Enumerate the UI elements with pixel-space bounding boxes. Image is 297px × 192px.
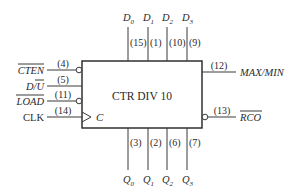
pin-label: (3) [130, 137, 142, 149]
output-rco: (13) RCO [202, 105, 262, 123]
signal-label: D3 [181, 12, 194, 26]
clock-label: C [96, 111, 104, 123]
pin-label: (2) [150, 137, 162, 149]
pin-label: (10) [169, 37, 186, 49]
pin-label: (6) [169, 137, 181, 149]
signal-label: MAX/MIN [239, 67, 285, 78]
pin-label: (12) [211, 60, 228, 72]
output-q0: (3) Q0 [123, 128, 142, 188]
signal-label: Q1 [143, 174, 154, 188]
block-title: CTR DIV 10 [112, 90, 172, 102]
signal-label: CTEN [18, 65, 45, 76]
signal-label: LOAD [16, 96, 45, 107]
signal-label: Q2 [162, 174, 174, 188]
output-q1: (2) Q1 [143, 128, 162, 188]
pin-label: (13) [214, 105, 231, 117]
signal-label: D1 [142, 12, 154, 26]
pin-label: (14) [55, 105, 72, 117]
output-max-min: (12) MAX/MIN [202, 60, 285, 78]
input-clk: (14) CLK [23, 105, 82, 123]
pin-label: (11) [55, 89, 71, 101]
input-cten: (4) CTEN [18, 58, 82, 76]
pin-label: (1) [150, 37, 162, 49]
signal-label: Q3 [182, 174, 194, 188]
counter-diagram: CTR DIV 10 C (4) CTEN (5) D/U (11) LOAD … [0, 0, 297, 192]
pin-label: (4) [57, 58, 69, 70]
pin-label: (5) [57, 74, 69, 86]
inversion-bubble-icon [202, 114, 208, 120]
output-q3: (7) Q3 [182, 128, 201, 188]
pin-label: (7) [189, 137, 201, 149]
inversion-bubble-icon [76, 98, 82, 104]
inversion-bubble-icon [76, 67, 82, 73]
signal-label: D2 [161, 12, 174, 26]
pin-label: (9) [189, 37, 201, 49]
signal-label: Q0 [123, 174, 135, 188]
output-q2: (6) Q2 [162, 128, 181, 188]
signal-label: RCO [239, 112, 261, 123]
input-du: (5) D/U [25, 74, 82, 92]
signal-label: CLK [23, 112, 44, 123]
pin-label: (15) [130, 37, 147, 49]
signal-label: D/U [25, 81, 46, 92]
signal-label: D0 [122, 12, 135, 26]
